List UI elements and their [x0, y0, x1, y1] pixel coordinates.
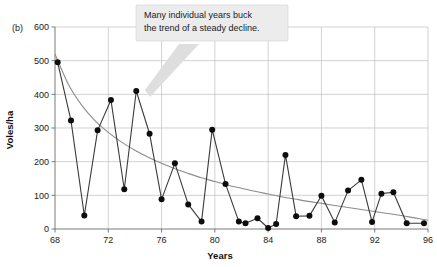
- y-tick-label: 400: [34, 90, 49, 100]
- data-point: [172, 160, 178, 166]
- callout-line-1: Many individual years buck: [144, 10, 253, 20]
- x-tick-label: 80: [210, 235, 220, 245]
- callout-line-2: the trend of a steady decline.: [144, 23, 260, 33]
- x-tick-label: 84: [263, 235, 273, 245]
- x-tick-label: 76: [157, 235, 167, 245]
- x-tick-label: 92: [370, 235, 380, 245]
- data-point: [223, 181, 229, 187]
- x-tick-label: 96: [423, 235, 433, 245]
- data-point: [55, 59, 61, 65]
- data-point: [81, 213, 87, 219]
- data-point: [404, 220, 410, 226]
- data-point: [390, 189, 396, 195]
- data-point: [282, 152, 288, 158]
- data-point: [318, 193, 324, 199]
- data-point: [209, 127, 215, 133]
- y-tick-label: 200: [34, 157, 49, 167]
- data-point: [68, 118, 74, 124]
- data-point: [332, 220, 338, 226]
- y-tick-label: 100: [34, 191, 49, 201]
- data-point: [199, 219, 205, 225]
- data-point: [369, 219, 375, 225]
- y-tick-label: 300: [34, 123, 49, 133]
- data-point: [108, 97, 114, 103]
- data-point: [254, 215, 260, 221]
- x-tick-label: 68: [50, 235, 60, 245]
- data-point: [273, 221, 279, 227]
- data-point: [243, 220, 249, 226]
- data-point: [293, 213, 299, 219]
- data-point: [421, 220, 427, 226]
- data-point: [236, 219, 242, 225]
- data-point: [345, 188, 351, 194]
- x-tick-label: 72: [103, 235, 113, 245]
- y-tick-label: 500: [34, 56, 49, 66]
- data-point: [265, 225, 271, 231]
- data-point: [95, 127, 101, 133]
- data-point: [358, 177, 364, 183]
- data-point: [121, 186, 127, 192]
- data-point: [306, 213, 312, 219]
- x-tick-label: 88: [316, 235, 326, 245]
- y-tick-label: 600: [34, 22, 49, 32]
- data-point: [378, 191, 384, 197]
- data-point: [147, 131, 153, 137]
- panel-label: (b): [12, 23, 23, 33]
- y-axis-title: Voles/ha: [4, 110, 15, 149]
- vole-density-chart: 0100200300400500600 6872768084889296 Yea…: [0, 0, 437, 267]
- data-point: [159, 196, 165, 202]
- data-point: [133, 88, 139, 94]
- x-axis-title: Years: [207, 250, 232, 261]
- data-point: [185, 201, 191, 207]
- y-tick-label: 0: [44, 224, 49, 234]
